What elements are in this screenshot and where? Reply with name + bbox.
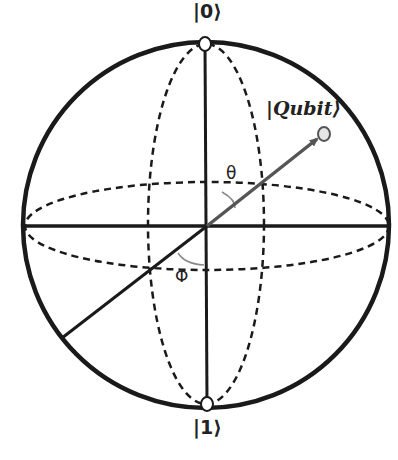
bloch-sphere-graphic xyxy=(0,0,398,460)
ket-zero-label: |0⟩ xyxy=(193,2,222,21)
ket-one-label: |1⟩ xyxy=(193,418,222,437)
south-pole-node xyxy=(201,397,213,411)
phi-arc xyxy=(178,253,204,265)
theta-label: θ xyxy=(226,165,236,182)
vertical-axis xyxy=(205,46,207,402)
qubit-state-arrow xyxy=(207,139,317,226)
phi-label: Φ xyxy=(175,268,188,285)
qubit-state-node xyxy=(318,127,330,141)
bloch-sphere-diagram: |0⟩ |1⟩ |Qubit⟩ θ Φ xyxy=(0,0,398,460)
qubit-state-label: |Qubit⟩ xyxy=(266,99,341,118)
north-pole-node xyxy=(199,37,211,51)
